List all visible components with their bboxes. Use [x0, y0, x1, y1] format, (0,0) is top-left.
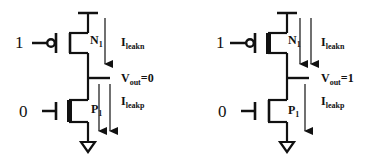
circuit-diagram: 1 0 N1 P1 Ileakn Vout=0 Ileakp 1 0 N1 P1…	[0, 0, 370, 159]
ground-symbol	[280, 142, 294, 152]
ground-symbol	[81, 142, 95, 152]
right-n1-label: N1	[288, 34, 301, 49]
circuit-schematic	[0, 0, 370, 159]
right-input-top-value: 1	[216, 34, 225, 51]
right-ileakp-label: Ileakp	[321, 95, 344, 110]
left-vout-label: Vout=0	[121, 72, 154, 87]
left-n1-label: N1	[90, 34, 103, 49]
left-p1-label: P1	[91, 103, 102, 118]
right-input-bottom-value: 0	[218, 103, 227, 120]
right-vout-label: Vout=1	[321, 72, 354, 87]
right-ileakn-label: Ileakn	[321, 36, 344, 51]
left-input-bottom-value: 0	[19, 103, 28, 120]
nmos-transistor-n1	[32, 33, 88, 53]
left-input-top-value: 1	[15, 34, 24, 51]
right-p1-label: P1	[288, 104, 299, 119]
pmos-transistor-p1	[241, 100, 287, 122]
left-ileakp-label: Ileakp	[121, 95, 144, 110]
left-ileakn-label: Ileakn	[121, 36, 144, 51]
pmos-transistor-p1	[42, 100, 88, 122]
nmos-transistor-n1	[230, 33, 287, 54]
